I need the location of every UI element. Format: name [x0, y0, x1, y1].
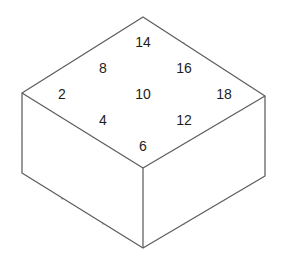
cube-label-6: 6: [139, 138, 147, 154]
cube-label-16: 16: [176, 60, 192, 76]
cube-label-14: 14: [135, 34, 151, 50]
isometric-cube-figure: 2 8 14 4 10 16 6 12 18: [0, 0, 281, 261]
cube-label-4: 4: [99, 112, 107, 128]
cube-label-10: 10: [135, 86, 151, 102]
cube-label-8: 8: [99, 60, 107, 76]
cube-label-2: 2: [58, 86, 66, 102]
cube-silhouette: [22, 17, 265, 248]
cube-diagram: 2 8 14 4 10 16 6 12 18: [0, 0, 281, 261]
cube-label-18: 18: [216, 86, 232, 102]
cube-label-12: 12: [176, 112, 192, 128]
